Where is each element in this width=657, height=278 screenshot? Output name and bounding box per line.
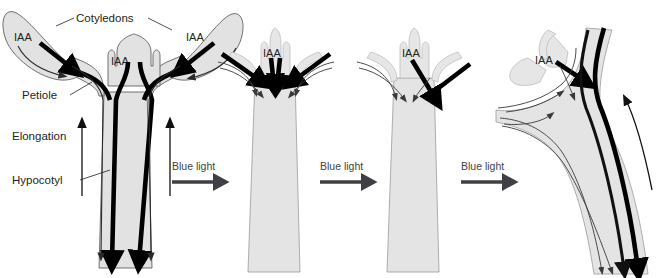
blue-light-arrow-3: Blue light	[461, 160, 507, 182]
panel-2-flow-apex-left	[271, 58, 274, 86]
panel-3-petiole-right	[432, 52, 462, 82]
panel-2-hypocotyl	[248, 78, 300, 272]
panel-1-seedling: IAA IAA IAA Cotyledons Petiole Elongatio…	[3, 12, 243, 268]
panel-3-iaa-label: IAA	[402, 47, 420, 59]
blue-light-label-2: Blue light	[320, 160, 363, 172]
label-cotyledons: Cotyledons	[76, 12, 134, 24]
panel-1-iaa-label-left: IAA	[14, 31, 32, 43]
leader-cotyledons-right	[148, 18, 172, 30]
leader-petiole	[70, 82, 92, 95]
blue-light-label-1: Blue light	[172, 160, 215, 172]
panel-3-hypocotyl	[387, 78, 439, 272]
panel-2-seedling: IAA	[218, 28, 334, 272]
label-petiole: Petiole	[22, 89, 57, 101]
leader-cotyledons-left	[56, 18, 74, 26]
blue-light-arrow-2: Blue light	[320, 160, 366, 182]
panel-1-iaa-label-right: IAA	[186, 31, 204, 43]
blue-light-arrow-1: Blue light	[172, 160, 218, 182]
panel-2-iaa-label: IAA	[263, 47, 281, 59]
panel-4-iaa-label: IAA	[535, 54, 553, 66]
label-elongation: Elongation	[12, 130, 66, 142]
panel-4-seedling: IAA	[496, 28, 652, 274]
panel-4-elongation-arrow	[625, 98, 652, 190]
label-hypocotyl: Hypocotyl	[12, 174, 63, 186]
phototropism-diagram: IAA IAA IAA Cotyledons Petiole Elongatio…	[0, 0, 657, 278]
blue-light-label-3: Blue light	[461, 160, 504, 172]
panel-3-seedling: IAA	[357, 28, 470, 272]
panel-2-flow-apex-right	[277, 58, 280, 86]
